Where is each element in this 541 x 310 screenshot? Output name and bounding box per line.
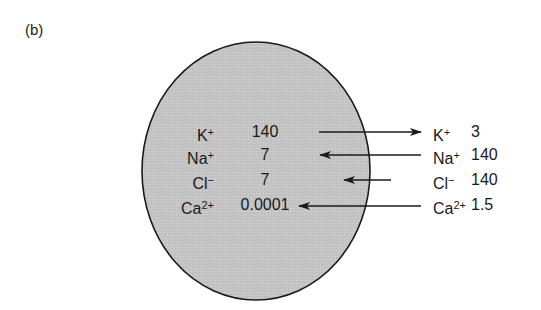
outside-value-na: 140 xyxy=(471,146,498,164)
outside-value-k: 3 xyxy=(471,123,480,141)
inside-value-ca: 0.0001 xyxy=(225,196,305,214)
ion-concentration-diagram: (b) K+ Na+ Cl− Ca2+ 140 7 7 0.0001 K+ Na… xyxy=(0,0,541,310)
outside-value-ca: 1.5 xyxy=(471,196,493,214)
panel-label: (b) xyxy=(25,21,43,39)
inside-ion-cl: Cl− xyxy=(134,171,214,193)
inside-ion-na: Na+ xyxy=(134,146,214,168)
inside-value-na: 7 xyxy=(225,146,305,164)
inside-ion-k: K+ xyxy=(134,123,214,145)
inside-value-cl: 7 xyxy=(225,171,305,189)
inside-ion-ca: Ca2+ xyxy=(134,196,214,218)
outside-ion-ca: Ca2+ xyxy=(433,196,466,218)
outside-ion-k: K+ xyxy=(433,123,450,145)
inside-value-k: 140 xyxy=(225,123,305,141)
outside-value-cl: 140 xyxy=(471,171,498,189)
outside-ion-cl: Cl− xyxy=(433,171,455,193)
outside-ion-na: Na+ xyxy=(433,146,460,168)
